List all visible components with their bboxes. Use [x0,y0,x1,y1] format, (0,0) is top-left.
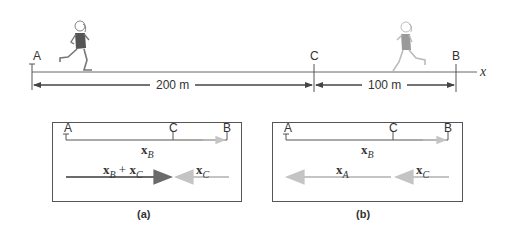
caption-b: (b) [356,208,370,220]
distance-label-200m: 200 m [150,79,195,91]
panel-b-label-xc: xC [416,163,429,180]
panel-a-point-a: A [64,122,72,134]
panel-b-point-a: A [284,122,292,134]
panel-b-label-xb: xB [361,143,374,160]
panel-a-label-xb: xB [141,143,154,160]
caption-a: (a) [137,208,150,220]
runner-dark-icon [60,21,92,70]
point-label-c: C [310,50,319,62]
panel-a-point-b: B [223,122,231,134]
panel-a-label-xb-plus-xc: xB + xC [103,163,143,180]
x-axis [29,64,477,92]
panel-b-point-c: C [389,122,398,134]
panel-b-point-b: B [444,122,452,134]
panel-a: A C B xB xB + xC xC [52,122,242,202]
panel-a-point-c: C [169,122,178,134]
panel-b: A C B xB xA xC [272,122,463,202]
distance-label-100m: 100 m [362,79,407,91]
panel-b-label-xa: xA [336,163,349,180]
panel-a-label-xc: xC [196,163,209,180]
runner-light-icon [393,22,425,71]
panel-a-segment-ab [63,132,227,140]
point-label-b: B [452,50,460,62]
axis-label-x: x [480,64,486,80]
point-label-a: A [33,50,41,62]
panel-b-segment-ab [283,132,448,140]
